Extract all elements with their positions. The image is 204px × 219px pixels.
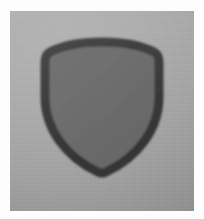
shield-outline-path	[45, 42, 159, 173]
image-canvas: Dark gray outlined heraldic shield cente…	[0, 0, 204, 219]
gray-background-plate	[10, 11, 194, 211]
shield-icon	[10, 11, 194, 208]
shield-emblem	[10, 11, 194, 208]
